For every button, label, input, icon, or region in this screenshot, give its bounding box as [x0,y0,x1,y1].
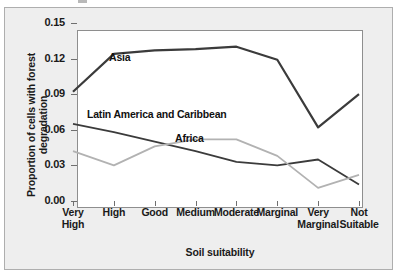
series-line-africa [73,139,359,188]
series-label-latin-america: Latin America and Caribbean [87,109,227,121]
series-label-asia: Asia [109,52,130,64]
series-label-africa: Africa [175,133,204,145]
x-axis-title: Soil suitability [77,246,363,258]
chart-figure: Proportion of cells with forest degradat… [0,0,397,275]
chart-panel: Proportion of cells with forest degradat… [4,7,393,270]
top-crop-artifact [78,0,87,3]
series-label-latin-america-line2: and Caribbean [156,108,226,120]
series-label-latin-america-line1: Latin America [87,108,153,120]
series-line-latin-america-and-caribbean [73,124,359,184]
